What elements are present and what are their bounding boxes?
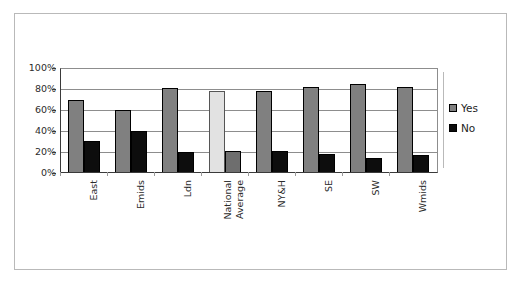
x-axis-tick	[295, 172, 296, 176]
legend-swatch	[449, 124, 457, 132]
bar-group	[209, 69, 241, 173]
y-axis-tick-label: 60%	[12, 105, 56, 115]
bar-yes	[68, 100, 84, 173]
y-axis-tick-label: 100%	[12, 63, 56, 73]
x-axis-tick-label-line2: Average	[234, 180, 245, 219]
legend-label: No	[461, 121, 475, 136]
bar-group	[68, 69, 100, 173]
y-axis-tick	[52, 131, 56, 132]
bar-no	[178, 152, 194, 173]
x-axis-tick-label: Ldn	[182, 180, 193, 197]
bar-yes	[350, 84, 366, 173]
bar-yes	[397, 87, 413, 173]
bar-no	[366, 158, 382, 173]
y-axis-tick-label: 0%	[12, 168, 56, 178]
x-axis-tick-label: SE	[323, 180, 334, 192]
legend-item[interactable]: No	[449, 120, 478, 136]
x-axis-tick-label: SW	[370, 180, 381, 195]
bar-yes	[115, 110, 131, 173]
bar-group	[256, 69, 288, 173]
x-axis-tick-label: NY&H	[276, 180, 287, 207]
bar-no	[131, 131, 147, 173]
x-axis-tick	[107, 172, 108, 176]
x-axis-tick	[60, 172, 61, 176]
bar-group	[115, 69, 147, 173]
bar-yes	[256, 91, 272, 173]
y-axis-tick-label: 80%	[12, 84, 56, 94]
x-axis-labels: EastEmidsLdnNationalAverageNY&HSESWWmids	[60, 176, 438, 252]
bar-yes	[209, 91, 225, 173]
bar-series-container	[61, 69, 437, 173]
x-axis-tick	[248, 172, 249, 176]
bar-no	[84, 141, 100, 173]
bar-no	[225, 151, 241, 173]
x-axis-tick	[201, 172, 202, 176]
x-axis-tick	[389, 172, 390, 176]
legend-item[interactable]: Yes	[449, 100, 478, 116]
x-axis-tick	[342, 172, 343, 176]
chart-screenshot: 100%80%60%40%20%0% EastEmidsLdnNationalA…	[0, 0, 518, 285]
bar-no	[319, 154, 335, 173]
legend-divider	[443, 72, 444, 168]
y-axis-labels: 100%80%60%40%20%0%	[8, 68, 56, 173]
y-axis-tick-label: 20%	[12, 147, 56, 157]
bar-group	[162, 69, 194, 173]
bar-no	[272, 151, 288, 173]
bar-group	[350, 69, 382, 173]
y-axis-tick	[52, 173, 56, 174]
bar-group	[303, 69, 335, 173]
y-axis-tick	[52, 89, 56, 90]
y-axis-tick	[52, 68, 56, 69]
bar-yes	[303, 87, 319, 173]
x-axis-tick-label: East	[88, 180, 99, 201]
legend-label: Yes	[461, 101, 478, 116]
bar-group	[397, 69, 429, 173]
y-axis-tick	[52, 110, 56, 111]
y-axis-tick	[52, 152, 56, 153]
x-axis-tick-label: Wmids	[417, 180, 428, 212]
x-axis-tick-label: National	[222, 180, 233, 220]
x-axis-tick	[154, 172, 155, 176]
x-axis-tick-label: Emids	[135, 180, 146, 209]
bar-yes	[162, 88, 178, 173]
bar-no	[413, 155, 429, 173]
y-axis-tick-label: 40%	[12, 126, 56, 136]
legend-swatch	[449, 104, 457, 112]
chart-legend: YesNo	[449, 100, 478, 140]
